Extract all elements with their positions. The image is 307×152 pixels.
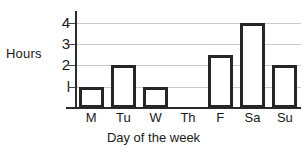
bar-chart: Hours l234 MTuWThFSaSu Day of the week [0,0,307,152]
x-tick-label-m: M [75,110,107,126]
bar-slot [176,12,201,108]
bar-w [143,87,168,108]
bar-slot [111,12,136,108]
bar-series [75,12,301,108]
bar-slot [208,12,233,108]
x-tick-label-sa: Sa [236,110,268,126]
x-axis-title: Day of the week [0,130,307,145]
bar-m [79,87,104,108]
bar-sa [240,23,265,108]
x-tick-label-su: Su [269,110,301,126]
bar-slot [79,12,104,108]
bar-slot [143,12,168,108]
bar-su [272,65,297,108]
bar-tu [111,65,136,108]
x-axis-tick-labels: MTuWThFSaSu [75,110,301,128]
x-tick-label-w: W [140,110,172,126]
x-tick-label-tu: Tu [107,110,139,126]
bar-f [208,55,233,108]
bar-slot [240,12,265,108]
x-tick-label-th: Th [172,110,204,126]
bar-slot [272,12,297,108]
x-tick-label-f: F [204,110,236,126]
y-axis-title: Hours [6,46,42,61]
